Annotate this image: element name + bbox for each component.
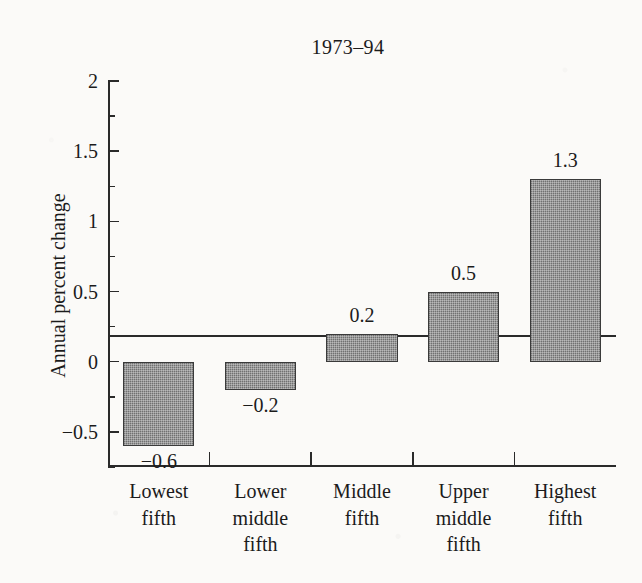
y-tick-label: 2 (88, 70, 98, 93)
x-axis-separator-tick (514, 452, 516, 467)
bar-value-label: 1.3 (514, 149, 616, 172)
x-axis-category-label: Lowermiddlefifth (210, 478, 312, 558)
y-axis-title: Annual percent change (47, 126, 70, 446)
y-tick-major (108, 431, 119, 433)
y-tick-label: −0.5 (62, 420, 98, 443)
x-axis-label-line: Lower (210, 478, 312, 505)
y-tick-minor (108, 326, 115, 328)
x-axis-label-line: fifth (108, 505, 210, 532)
x-axis-label-line: fifth (210, 531, 312, 558)
y-tick-minor (108, 396, 115, 398)
y-tick-label: 1.5 (73, 140, 98, 163)
x-axis-label-line: Upper (413, 478, 515, 505)
y-tick-label: 0.5 (73, 280, 98, 303)
bar (428, 292, 499, 362)
x-axis-label-line: middle (210, 505, 312, 532)
bar (123, 362, 194, 446)
x-axis-category-label: Uppermiddlefifth (413, 478, 515, 558)
y-tick-label: 1 (88, 210, 98, 233)
x-axis-label-line: middle (413, 505, 515, 532)
x-axis-label-line: Highest (514, 478, 616, 505)
y-tick-major (108, 361, 119, 363)
x-axis-label-line: fifth (311, 505, 413, 532)
x-axis-category-label: Middlefifth (311, 478, 413, 531)
chart-title: 1973–94 (78, 36, 618, 59)
x-axis-label-line: fifth (514, 505, 616, 532)
x-axis-separator-tick (310, 452, 312, 467)
y-tick-label: 0 (88, 350, 98, 373)
y-tick-minor (108, 186, 115, 188)
bar-value-label: −0.2 (210, 394, 312, 417)
bar-value-label: 0.2 (311, 304, 413, 327)
x-axis-label-line: fifth (413, 531, 515, 558)
y-tick-major (108, 291, 119, 293)
x-axis-label-line: Lowest (108, 478, 210, 505)
y-tick-major (108, 80, 119, 82)
y-axis-line (108, 81, 110, 467)
x-axis-label-line: Middle (311, 478, 413, 505)
bar (225, 362, 296, 390)
bar-value-label: 0.5 (413, 262, 515, 285)
y-tick-minor (108, 115, 115, 117)
bar (530, 179, 601, 361)
x-axis-category-label: Highestfifth (514, 478, 616, 531)
bar (326, 334, 397, 362)
y-tick-minor (108, 256, 115, 258)
x-axis-separator-tick (412, 452, 414, 467)
chart-figure: 1973–94 Annual percent change 21.510.50−… (0, 0, 642, 583)
plot-area: 21.510.50−0.5 −0.6−0.20.20.51.3 (108, 81, 616, 467)
y-tick-major (108, 150, 119, 152)
x-axis-category-label: Lowestfifth (108, 478, 210, 531)
bar-value-label: −0.6 (108, 450, 210, 473)
y-tick-major (108, 221, 119, 223)
